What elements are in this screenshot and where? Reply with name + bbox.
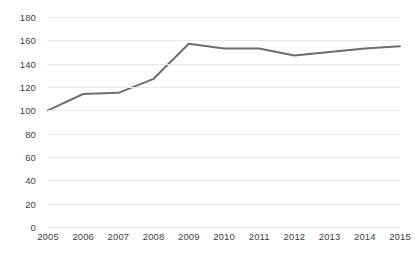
- x-axis-tick-label: 2006: [72, 231, 94, 242]
- gridline-40: [48, 180, 400, 181]
- y-axis-tick-label: 80: [25, 128, 36, 139]
- gridline-180: [48, 17, 400, 18]
- gridline-80: [48, 134, 400, 135]
- x-axis-tick-label: 2015: [389, 231, 411, 242]
- gridline-60: [48, 157, 400, 158]
- line-chart: 180160140120100806040200 200520062007200…: [0, 0, 415, 261]
- y-axis-tick-label: 100: [20, 105, 36, 116]
- x-axis-tick-label: 2013: [319, 231, 341, 242]
- x-axis-tick-label: 2009: [178, 231, 200, 242]
- gridline-20: [48, 204, 400, 205]
- x-axis-tick-label: 2007: [108, 231, 130, 242]
- y-axis-tick-label: 20: [25, 198, 36, 209]
- gridline-140: [48, 64, 400, 65]
- x-axis-tick-label: 2010: [213, 231, 235, 242]
- y-axis-tick-label: 160: [20, 35, 36, 46]
- gridline-100: [48, 110, 400, 111]
- y-axis-tick-label: 40: [25, 175, 36, 186]
- plot-area: [48, 17, 400, 227]
- x-axis-tick-label: 2011: [249, 231, 270, 242]
- y-axis-tick-label: 140: [20, 58, 36, 69]
- y-axis: 180160140120100806040200: [0, 17, 42, 227]
- x-axis-tick-label: 2012: [284, 231, 306, 242]
- x-axis: 2005200620072008200920102011201220132014…: [48, 231, 400, 251]
- x-axis-tick-label: 2008: [143, 231, 165, 242]
- gridline-120: [48, 87, 400, 88]
- gridline-0: [48, 227, 400, 228]
- y-axis-tick-label: 180: [20, 12, 36, 23]
- gridline-160: [48, 40, 400, 41]
- y-axis-tick-label: 60: [25, 152, 36, 163]
- y-axis-tick-label: 0: [31, 222, 36, 233]
- series-polyline: [48, 44, 400, 111]
- x-axis-tick-label: 2005: [37, 231, 59, 242]
- series-line-index: [48, 17, 400, 227]
- y-axis-tick-label: 120: [20, 82, 36, 93]
- x-axis-tick-label: 2014: [354, 231, 376, 242]
